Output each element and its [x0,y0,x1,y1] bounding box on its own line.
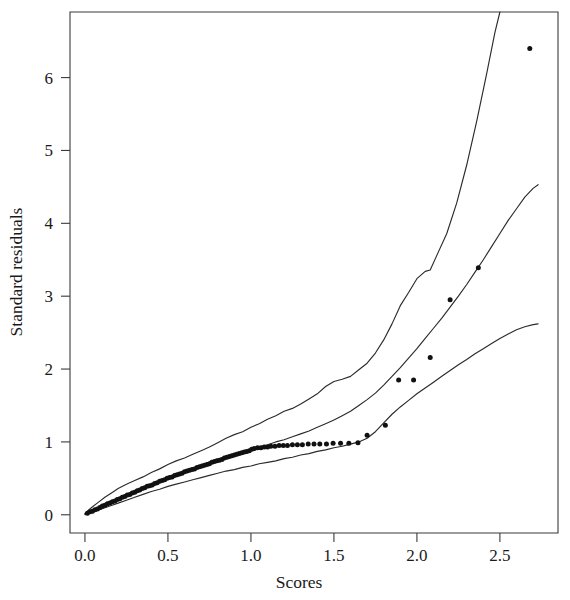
x-tick-label: 0.5 [157,546,178,565]
data-point [448,297,453,302]
data-point [290,442,295,447]
data-point [324,442,329,447]
data-point [317,442,322,447]
y-tick-label: 4 [45,214,54,233]
y-tick-label: 2 [45,360,54,379]
y-axis-title: Standard residuals [6,207,26,336]
figure-background [0,0,570,600]
data-point [300,442,305,447]
data-point [527,46,532,51]
data-point [331,441,336,446]
x-tick-label: 1.0 [240,546,261,565]
data-point [428,355,433,360]
y-tick-label: 6 [45,69,54,88]
data-point [383,423,388,428]
data-point [411,377,416,382]
data-point [272,444,277,449]
data-point [312,442,317,447]
data-point [338,441,343,446]
data-point [306,442,311,447]
plot-svg: 0.00.51.01.52.02.50123456 Scores Standar… [0,0,570,600]
x-tick-label: 2.5 [489,546,510,565]
x-tick-label: 0.0 [74,546,95,565]
y-tick-label: 0 [45,506,54,525]
data-point [476,265,481,270]
x-axis-title: Scores [276,572,323,592]
half-normal-plot-figure: 0.00.51.01.52.02.50123456 Scores Standar… [0,0,570,600]
data-point [285,443,290,448]
data-point [396,377,401,382]
data-point [295,442,300,447]
y-tick-label: 1 [45,433,54,452]
data-point [346,441,351,446]
y-tick-label: 3 [45,287,54,306]
x-tick-label: 1.5 [323,546,344,565]
data-point [355,440,360,445]
y-tick-label: 5 [45,141,54,160]
data-point [365,433,370,438]
x-tick-label: 2.0 [406,546,427,565]
